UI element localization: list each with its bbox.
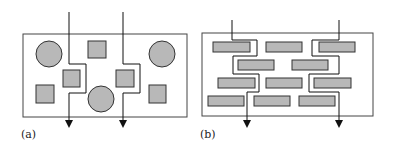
particles-a xyxy=(36,41,175,112)
panel-a-label: (a) xyxy=(21,128,36,141)
path-b1 xyxy=(232,20,259,124)
panel-b-label: (b) xyxy=(200,128,216,141)
panel-a xyxy=(23,12,187,124)
path-a2 xyxy=(123,12,140,124)
path-b2 xyxy=(309,20,339,124)
path-a1 xyxy=(69,12,86,124)
diagram xyxy=(0,0,393,148)
panel-b xyxy=(202,20,373,124)
